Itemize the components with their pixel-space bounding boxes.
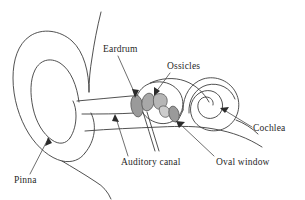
eardrum-leader-line — [118, 56, 135, 94]
pinna-antihelix — [31, 60, 79, 143]
head-outline-top — [89, 12, 101, 92]
ear-anatomy-diagram: Eardrum Ossicles Cochlea Auditory canal … — [0, 0, 305, 200]
label-cochlea: Cochlea — [253, 124, 286, 134]
oval-window-leader-line — [180, 124, 214, 156]
label-auditory-canal: Auditory canal — [121, 158, 181, 168]
ossicles-leader-line — [156, 73, 170, 92]
auditory-canal-leader-line — [116, 118, 128, 156]
pinna-concha — [70, 101, 76, 138]
cochlea-outer-wall — [183, 78, 239, 131]
skull-base-line — [85, 126, 262, 147]
auditory-canal-arrowhead — [112, 114, 119, 122]
label-ossicles: Ossicles — [167, 62, 200, 72]
pinna-arrowhead — [45, 137, 52, 146]
cochlea-inner-wall — [189, 84, 235, 113]
label-oval-window: Oval window — [216, 158, 270, 168]
auditory-canal-upper-wall — [77, 96, 138, 101]
label-pinna: Pinna — [14, 176, 37, 186]
pinna-lobe — [85, 113, 94, 153]
jaw-outline — [62, 161, 111, 199]
label-eardrum: Eardrum — [103, 45, 138, 55]
ear-diagram-canvas — [0, 0, 305, 200]
oval-window-shape — [167, 105, 181, 123]
